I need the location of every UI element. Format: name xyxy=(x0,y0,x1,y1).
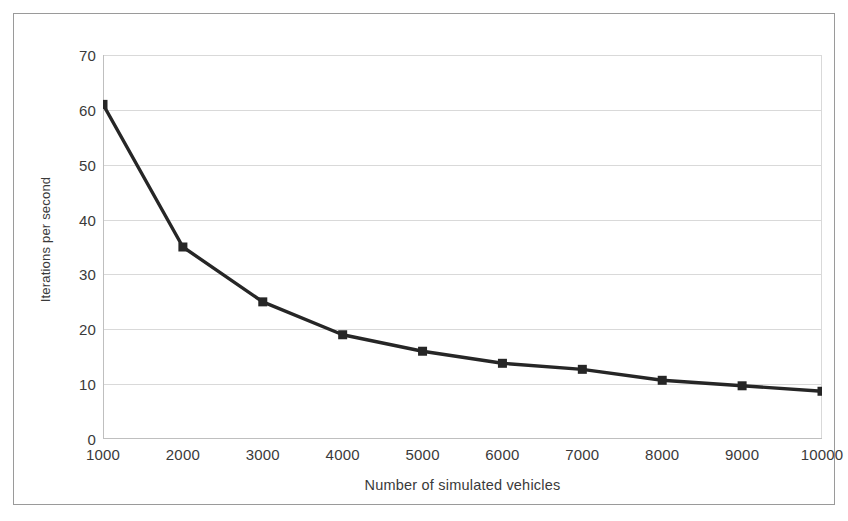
data-point-marker xyxy=(103,100,108,109)
x-tick-label-2000: 2000 xyxy=(166,446,200,463)
data-point-marker xyxy=(498,359,507,368)
data-point-marker xyxy=(178,243,187,252)
x-tick-label-7000: 7000 xyxy=(565,446,599,463)
y-tick-label-50: 50 xyxy=(79,156,96,173)
y-axis-tick-labels: 0 10 20 30 40 50 60 70 xyxy=(52,55,96,439)
x-axis-title: Number of simulated vehicles xyxy=(103,477,822,493)
y-tick-label-10: 10 xyxy=(79,376,96,393)
x-tick-label-1000: 1000 xyxy=(86,446,120,463)
y-tick-label-70: 70 xyxy=(79,47,96,64)
x-axis-tick-labels: 1000 2000 3000 4000 5000 6000 7000 8000 … xyxy=(103,446,822,470)
x-tick-label-3000: 3000 xyxy=(246,446,280,463)
y-axis-title: Iterations per second xyxy=(38,140,53,340)
x-tick-label-9000: 9000 xyxy=(725,446,759,463)
x-tick-label-6000: 6000 xyxy=(485,446,519,463)
y-tick-label-20: 20 xyxy=(79,321,96,338)
data-series-markers xyxy=(103,100,822,396)
x-tick-label-10000: 10000 xyxy=(801,446,844,463)
data-point-marker xyxy=(258,297,267,306)
y-tick-label-60: 60 xyxy=(79,101,96,118)
chart-frame: 0 10 20 30 40 50 60 70 xyxy=(13,13,835,505)
y-tick-label-0: 0 xyxy=(87,431,96,448)
plot-area xyxy=(103,55,822,439)
y-tick-label-30: 30 xyxy=(79,266,96,283)
x-tick-label-8000: 8000 xyxy=(645,446,679,463)
data-point-marker xyxy=(658,376,667,385)
data-series-line xyxy=(103,104,822,391)
data-point-marker xyxy=(818,387,823,396)
plot-canvas xyxy=(103,55,822,439)
data-point-marker xyxy=(738,381,747,390)
y-tick-label-40: 40 xyxy=(79,211,96,228)
chart-figure: 0 10 20 30 40 50 60 70 xyxy=(0,0,848,521)
data-point-marker xyxy=(418,347,427,356)
gridlines-horizontal xyxy=(103,56,822,385)
data-point-marker xyxy=(338,330,347,339)
x-tick-label-4000: 4000 xyxy=(326,446,360,463)
x-tick-label-5000: 5000 xyxy=(406,446,440,463)
data-point-marker xyxy=(578,365,587,374)
